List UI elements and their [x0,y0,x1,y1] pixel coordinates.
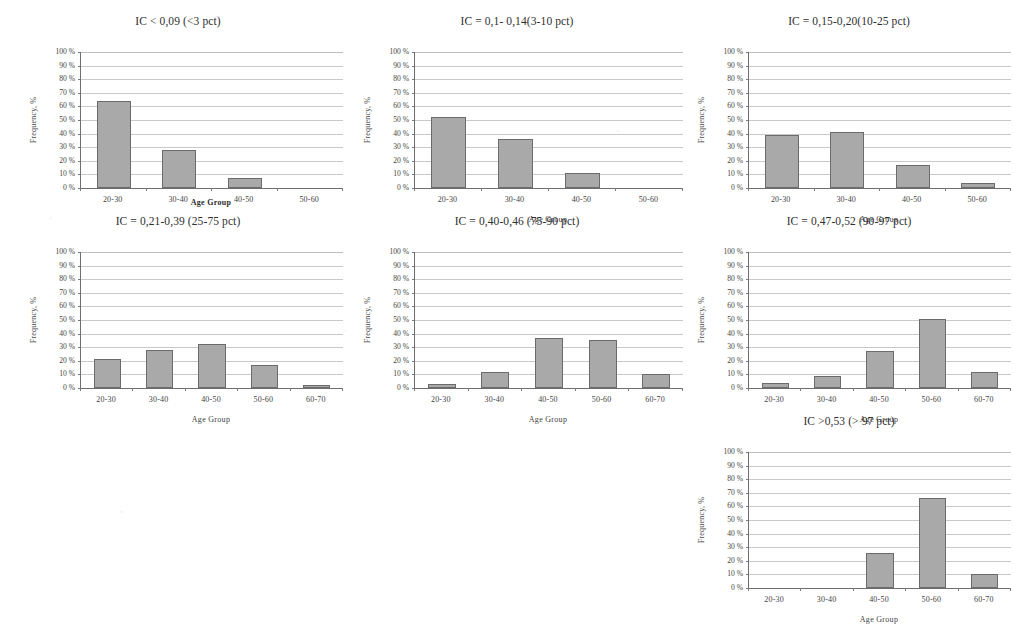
bar [642,374,670,388]
x-axis-title: Age Group [80,198,342,207]
x-axis-ticks: 20-3030-4040-5050-6060-70 [80,395,342,404]
bar [146,350,173,388]
y-tick-label: 70 % [727,89,743,97]
bar-series [415,52,683,188]
y-tick-label: 50 % [727,316,743,324]
bar-slot [959,252,1011,388]
plot-box [80,252,343,389]
chart-panel-ic-lt-009: IC < 0,09 (<3 pct)Frequency, %100 %90 %8… [18,14,338,210]
x-tick-label: 30-40 [800,595,852,604]
y-axis-title: Frequency, % [29,297,38,343]
x-tick-mark [800,388,801,391]
y-tick-label: 20 % [727,357,743,365]
y-tick-label: 0 % [63,384,75,392]
chart-panel-ic-015-020: IC = 0,15-0,20(10-25 pct)Frequency, %100… [686,14,1012,210]
y-axis-title: Frequency, % [697,97,706,143]
plot-box [414,252,683,389]
bar-series [749,452,1011,588]
bar-slot [81,252,133,388]
y-tick-label: 30 % [59,143,75,151]
chart-title: IC = 0,47-0,52 (90-97 pct) [686,214,1012,229]
y-tick-label: 20 % [59,157,75,165]
x-tick-mark [682,188,683,191]
x-tick-mark [468,388,469,391]
x-tick-label: 50-60 [237,395,289,404]
x-tick-mark [132,388,133,391]
chart-title: IC = 0,15-0,20(10-25 pct) [686,14,1012,29]
bar [896,165,930,188]
y-axis-ticks: 100 %90 %80 %70 %60 %50 %40 %30 %20 %10 … [716,52,746,188]
y-tick-label: 0 % [63,184,75,192]
x-axis-title: Age Group [748,615,1010,624]
y-tick-label: 30 % [59,343,75,351]
y-axis-ticks: 100 %90 %80 %70 %60 %50 %40 %30 %20 %10 … [382,52,412,188]
y-tick-label: 60 % [393,302,409,310]
x-axis-ticks: 20-3030-4040-5050-6060-70 [748,595,1010,604]
y-tick-label: 20 % [393,357,409,365]
x-tick-mark [80,388,81,391]
bar [971,574,998,588]
y-axis-title: Frequency, % [697,297,706,343]
y-tick-label: 30 % [727,343,743,351]
y-tick-label: 0 % [731,584,743,592]
chart-title: IC = 0,1- 0,14(3-10 pct) [352,14,682,29]
x-tick-mark [211,188,212,191]
y-tick-label: 10 % [727,370,743,378]
chart-plot-area: Frequency, %100 %90 %80 %70 %60 %50 %40 … [18,30,338,210]
bar-slot [815,52,881,188]
y-tick-label: 80 % [393,275,409,283]
chart-panel-ic-01-014: IC = 0,1- 0,14(3-10 pct)Frequency, %100 … [352,14,682,210]
y-axis-title: Frequency, % [29,97,38,143]
x-tick-label: 30-40 [468,395,522,404]
x-tick-label: 60-70 [290,395,342,404]
y-tick-label: 70 % [59,89,75,97]
x-tick-label: 50-60 [905,595,957,604]
x-tick-mark [1010,588,1011,591]
x-tick-mark [575,388,576,391]
x-tick-mark [748,188,749,191]
x-tick-mark [682,388,683,391]
x-axis-ticks: 20-3030-4040-5050-6060-70 [414,395,682,404]
x-tick-label: 50-60 [905,395,957,404]
bar [765,135,799,188]
x-tick-mark [748,388,749,391]
chart-plot-area: Frequency, %100 %90 %80 %70 %60 %50 %40 … [352,30,682,210]
y-tick-label: 60 % [727,502,743,510]
x-tick-mark [290,388,291,391]
x-tick-mark [945,188,946,191]
x-tick-label: 50-60 [945,195,1011,204]
x-tick-label: 20-30 [748,595,800,604]
bar-slot [549,52,616,188]
x-tick-label: 50-60 [615,195,682,204]
bar [565,173,600,188]
x-axis-title: Age Group [414,415,682,424]
bar-slot [801,452,853,588]
plot-box [748,252,1011,389]
x-tick-label: 60-70 [628,395,682,404]
x-axis-title: Age Group [80,415,342,424]
x-tick-label: 30-40 [132,395,184,404]
y-tick-label: 10 % [59,370,75,378]
y-axis-ticks: 100 %90 %80 %70 %60 %50 %40 %30 %20 %10 … [716,452,746,588]
bar [535,338,563,388]
x-tick-mark [853,388,854,391]
bar-series [81,52,343,188]
chart-title: IC < 0,09 (<3 pct) [18,14,338,29]
y-tick-label: 90 % [393,62,409,70]
x-tick-mark [1010,388,1011,391]
bar-slot [576,252,630,388]
bar [919,498,946,588]
y-tick-label: 70 % [59,289,75,297]
bar [94,359,121,388]
y-tick-label: 60 % [727,102,743,110]
chart-plot-area: Frequency, %100 %90 %80 %70 %60 %50 %40 … [686,430,1012,614]
y-tick-label: 100 % [55,248,75,256]
y-tick-label: 40 % [59,330,75,338]
chart-panel-ic-040-046: IC = 0,40-0,46 (75-90 pct)Frequency, %10… [352,214,682,414]
y-tick-label: 0 % [397,384,409,392]
bar-slot [906,252,958,388]
y-tick-label: 90 % [727,62,743,70]
x-axis-ticks: 20-3030-4040-5050-60 [414,195,682,204]
x-tick-mark [80,188,81,191]
y-tick-label: 30 % [393,143,409,151]
